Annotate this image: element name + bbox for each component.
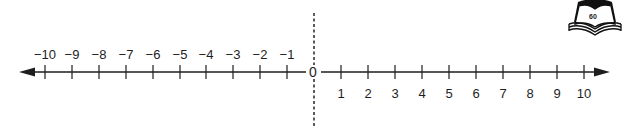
tick-label: 6: [472, 87, 479, 100]
tick-label: −10: [34, 48, 56, 61]
tick-label: 8: [526, 87, 533, 100]
tick-label: −9: [65, 48, 80, 61]
tick-label: −4: [199, 48, 214, 61]
right-arrowhead-icon: [594, 68, 610, 77]
tick-label: 7: [499, 87, 506, 100]
tick-label: 4: [418, 87, 425, 100]
tick-label: −7: [119, 48, 134, 61]
left-arrowhead-icon: [19, 68, 35, 77]
tick-label: −8: [92, 48, 107, 61]
number-line-diagram: −10−9−8−7−6−5−4−3−2−1 12345678910 0 60: [0, 0, 630, 134]
tick-label: 3: [391, 87, 398, 100]
tick-label: 10: [577, 87, 591, 100]
tick-label: 2: [364, 87, 371, 100]
tick-label: −2: [253, 48, 268, 61]
tick-label: −6: [146, 48, 161, 61]
tick-label: 1: [337, 87, 344, 100]
tick-label: −1: [280, 48, 295, 61]
tick-label: −5: [173, 48, 188, 61]
book-page-number: 60: [589, 13, 597, 20]
tick-label: 5: [445, 87, 452, 100]
tick-label: −3: [226, 48, 241, 61]
zero-label: 0: [308, 65, 318, 79]
tick-label: 9: [553, 87, 560, 100]
